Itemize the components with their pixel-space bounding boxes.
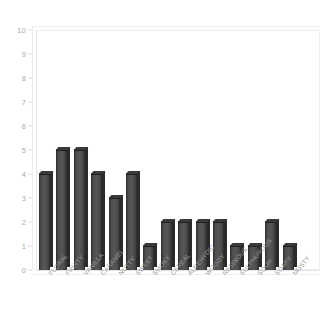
y-axis-tick-mark <box>28 78 32 79</box>
y-axis-tick-mark <box>28 198 32 199</box>
bar-front-face[interactable] <box>56 150 67 270</box>
bar-column[interactable] <box>126 30 140 270</box>
y-axis-tick-label: 3 <box>22 194 26 203</box>
bar-front-face[interactable] <box>74 150 85 270</box>
bar-column[interactable] <box>91 30 105 270</box>
y-axis: 109876543210 <box>0 0 36 325</box>
bar-side-face <box>102 171 105 267</box>
y-axis-tick-label: 4 <box>22 170 26 179</box>
y-axis-tick-label: 7 <box>22 98 26 107</box>
bar-column[interactable] <box>230 30 244 270</box>
y-axis-tick-mark <box>28 30 32 31</box>
y-axis-tick-mark <box>28 126 32 127</box>
y-axis-tick-mark <box>28 270 32 271</box>
y-axis-tick-label: 1 <box>22 242 26 251</box>
y-axis-tick-mark <box>28 102 32 103</box>
bars-layer <box>36 30 320 270</box>
bar-side-face <box>172 219 175 267</box>
bar-column[interactable] <box>39 30 53 270</box>
bar-side-face <box>294 243 297 267</box>
bar-side-face <box>224 219 227 267</box>
bar-side-face <box>276 219 279 267</box>
bar-side-face <box>67 147 70 267</box>
bar-column[interactable] <box>248 30 262 270</box>
bar-chart: 109876543210 FLORALFRUITYVANILLACARAMELN… <box>0 0 331 325</box>
bar-column[interactable] <box>143 30 157 270</box>
bar-column[interactable] <box>178 30 192 270</box>
y-axis-tick-mark <box>28 54 32 55</box>
bar-side-face <box>137 171 140 267</box>
bar-side-face <box>189 219 192 267</box>
bar-top-face <box>108 195 123 198</box>
bar-top-face <box>282 243 297 246</box>
y-axis-tick-mark <box>28 150 32 151</box>
bar-column[interactable] <box>283 30 297 270</box>
bar-column[interactable] <box>161 30 175 270</box>
y-axis-tick-mark <box>28 246 32 247</box>
y-axis-tick-label: 6 <box>22 122 26 131</box>
bar-column[interactable] <box>265 30 279 270</box>
bar-column[interactable] <box>196 30 210 270</box>
x-axis-labels: FLORALFRUITYVANILLACARAMELNUTTYSWEETSMOK… <box>36 272 326 325</box>
y-axis-tick-mark <box>28 174 32 175</box>
bar-column[interactable] <box>213 30 227 270</box>
y-axis-tick-mark <box>28 222 32 223</box>
y-axis-tick-label: 10 <box>17 26 26 35</box>
y-axis-tick-label: 8 <box>22 74 26 83</box>
bar-side-face <box>50 171 53 267</box>
y-axis-tick-label: 5 <box>22 146 26 155</box>
y-axis-tick-label: 2 <box>22 218 26 227</box>
bar-side-face <box>85 147 88 267</box>
bar-top-face <box>195 219 210 222</box>
bar-front-face[interactable] <box>39 174 50 270</box>
bar-column[interactable] <box>109 30 123 270</box>
bar-column[interactable] <box>56 30 70 270</box>
y-axis-tick-label: 0 <box>22 266 26 275</box>
y-axis-tick-label: 9 <box>22 50 26 59</box>
bar-column[interactable] <box>74 30 88 270</box>
